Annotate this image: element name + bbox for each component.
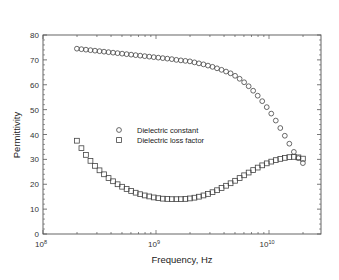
- data-point: [264, 105, 269, 110]
- data-point: [287, 155, 292, 160]
- data-point: [138, 192, 143, 197]
- data-point: [151, 55, 156, 60]
- data-point: [142, 193, 147, 198]
- data-point: [111, 50, 116, 55]
- x-tick-label: 108: [35, 239, 47, 249]
- series-dielectric-loss-factor: [75, 138, 306, 201]
- data-point: [133, 190, 138, 195]
- data-point: [201, 193, 206, 198]
- circle-marker-icon: [117, 128, 122, 133]
- data-point: [106, 50, 111, 55]
- y-tick-label: 20: [30, 180, 39, 189]
- data-point: [255, 93, 260, 98]
- data-point: [237, 176, 242, 181]
- data-point: [210, 190, 215, 195]
- data-point: [224, 183, 229, 188]
- data-point: [287, 141, 292, 146]
- y-tick-label: 30: [30, 155, 39, 164]
- data-point: [183, 197, 188, 202]
- data-point: [169, 57, 174, 62]
- data-point: [215, 66, 220, 71]
- y-tick-label: 10: [30, 205, 39, 214]
- legend: Dielectric constant Dielectric loss fact…: [117, 126, 205, 145]
- data-point: [133, 53, 138, 58]
- legend-label: Dielectric loss factor: [137, 136, 205, 145]
- y-tick-label: 0: [35, 230, 40, 239]
- data-point: [188, 59, 193, 64]
- data-point: [197, 194, 202, 199]
- data-point: [206, 63, 211, 68]
- data-point: [188, 196, 193, 201]
- data-point: [219, 186, 224, 191]
- legend-item-dielectric-constant: Dielectric constant: [117, 126, 200, 135]
- data-point: [93, 48, 98, 53]
- data-point: [233, 73, 238, 78]
- data-point: [278, 126, 283, 131]
- data-point: [273, 158, 278, 163]
- data-point: [201, 62, 206, 67]
- data-point: [129, 189, 134, 194]
- data-point: [192, 60, 197, 65]
- data-point: [178, 197, 183, 202]
- data-point: [246, 84, 251, 89]
- data-point: [233, 178, 238, 183]
- data-point: [160, 196, 165, 201]
- data-point: [97, 168, 102, 173]
- data-point: [178, 58, 183, 63]
- data-point: [228, 181, 233, 186]
- x-tick-label: 109: [148, 239, 160, 249]
- data-point: [192, 195, 197, 200]
- data-point: [75, 138, 80, 143]
- permittivity-chart: 01020304050607080 1081091010 Dielectric …: [0, 0, 339, 280]
- data-point: [206, 192, 211, 197]
- data-point: [174, 197, 179, 202]
- x-axis-title: Frequency, Hz: [151, 254, 212, 265]
- data-point: [174, 57, 179, 62]
- data-point: [224, 69, 229, 74]
- data-point: [260, 163, 265, 168]
- data-point: [93, 163, 98, 168]
- data-point: [120, 184, 125, 189]
- data-point: [142, 54, 147, 59]
- data-point: [138, 53, 143, 58]
- y-tick-label: 50: [30, 106, 39, 115]
- data-point: [124, 52, 129, 57]
- data-point: [282, 155, 287, 160]
- legend-label: Dielectric constant: [137, 126, 199, 135]
- data-point: [84, 152, 89, 157]
- data-point: [84, 47, 89, 52]
- data-point: [147, 194, 152, 199]
- data-point: [147, 54, 152, 59]
- x-tick-label: 1010: [259, 239, 274, 249]
- data-point: [242, 80, 247, 85]
- y-axis-title: Permittivity: [11, 112, 22, 159]
- data-point: [156, 196, 161, 201]
- data-point: [251, 88, 256, 93]
- data-point: [278, 156, 283, 161]
- legend-item-dielectric-loss-factor: Dielectric loss factor: [117, 136, 205, 145]
- y-tick-label: 80: [30, 31, 39, 40]
- data-point: [273, 118, 278, 123]
- data-point: [183, 58, 188, 63]
- data-point: [237, 76, 242, 81]
- data-point: [111, 179, 116, 184]
- data-point: [129, 52, 134, 57]
- data-point: [291, 154, 296, 159]
- data-point: [88, 158, 93, 163]
- data-point: [246, 170, 251, 175]
- data-point: [210, 64, 215, 69]
- data-point: [115, 182, 120, 187]
- data-point: [255, 165, 260, 170]
- series-dielectric-constant: [75, 46, 306, 165]
- data-point: [260, 99, 265, 104]
- data-point: [228, 71, 233, 76]
- data-point: [160, 56, 165, 61]
- data-point: [102, 172, 107, 177]
- data-point: [106, 176, 111, 181]
- data-point: [282, 133, 287, 138]
- data-point: [120, 51, 125, 56]
- data-point: [102, 49, 107, 54]
- data-point: [165, 56, 170, 61]
- data-point: [219, 67, 224, 72]
- data-point: [79, 146, 84, 151]
